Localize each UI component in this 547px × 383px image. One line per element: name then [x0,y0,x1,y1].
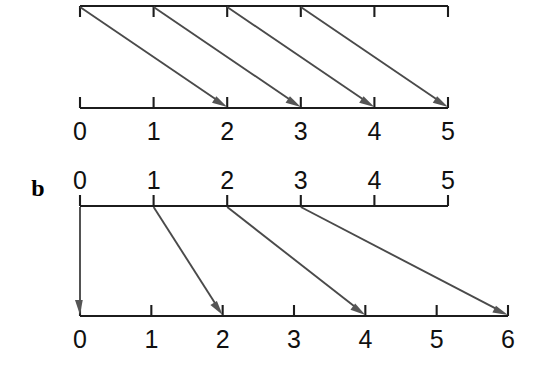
panel-b-top-axis-label-3: 3 [294,166,308,194]
panel-a-bottom-axis-label-2: 2 [220,117,234,145]
panel-b-arrow-0-head [75,300,83,315]
panel-b-bottom-axis-label-0: 0 [73,325,87,353]
panel-a-arrow-2-shaft [227,7,364,100]
panel-b-arrow-1 [154,207,223,315]
panel-a-bottom-axis: 012345 [73,97,455,145]
number-line-mapping-figure: 0123450123450123456b [0,0,547,383]
panel-a-arrow-3-shaft [301,7,438,100]
panel-b-arrow-1-head [210,301,222,315]
panel-a-top-axis [80,6,448,17]
panel-b-arrow-0 [75,207,83,315]
panel-a-arrow-3 [301,7,448,107]
panel-b: 0123450123456b [31,166,515,353]
panel-b-arrow-2-shaft [227,207,356,308]
panel-a-bottom-axis-label-5: 5 [441,117,455,145]
figure-canvas: 0123450123450123456b [0,0,547,383]
panel-b-arrow-1-shaft [154,207,217,305]
panel-b-arrow-2 [227,207,365,315]
panel-a-bottom-axis-label-0: 0 [73,117,87,145]
panel-a-arrow-0 [80,7,227,107]
panel-b-bottom-axis-label-5: 5 [430,325,444,353]
panel-b-arrow-3-shaft [301,207,498,309]
panel-a-bottom-axis-label-3: 3 [294,117,308,145]
panel-a-arrow-1 [154,7,301,107]
panel-a-arrow-0-shaft [80,7,217,100]
panel-a-arrow-2 [227,7,374,107]
panel-a-bottom-axis-label-1: 1 [147,117,161,145]
panel-b-bottom-axis-label-2: 2 [216,325,230,353]
panel-a: 012345 [73,6,455,145]
panel-a-bottom-axis-label-4: 4 [367,117,381,145]
panel-b-bottom-axis-label-6: 6 [501,325,515,353]
panel-b-bottom-axis-label-3: 3 [287,325,301,353]
panel-b-bottom-axis-label-4: 4 [358,325,372,353]
panel-b-label: b [31,175,44,201]
panel-a-arrow-1-shaft [154,7,291,100]
panel-b-arrow-3 [301,207,508,315]
panel-b-bottom-axis-label-1: 1 [144,325,158,353]
panel-b-top-axis-label-5: 5 [441,166,455,194]
panel-b-top-axis-label-4: 4 [367,166,381,194]
panel-b-top-axis-label-2: 2 [220,166,234,194]
panel-b-top-axis-label-0: 0 [73,166,87,194]
panel-b-bottom-axis: 0123456 [73,305,515,353]
panel-b-top-axis-label-1: 1 [147,166,161,194]
panel-b-top-axis: 012345 [73,166,455,206]
